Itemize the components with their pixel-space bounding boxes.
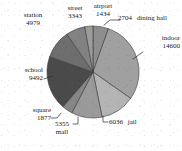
slice-label-jail-name: jail: [128, 118, 137, 126]
slice-label-mall-name: mall: [50, 128, 74, 136]
slice-label-dining-hall: 2704 dining hall: [118, 14, 167, 22]
slice-label-street-value: 3343: [60, 12, 90, 20]
slice-label-dining-hall-name: dining hall: [137, 14, 167, 22]
slice-label-square: square 1877: [6, 106, 51, 122]
slice-label-airport-name: airport: [94, 2, 113, 10]
slice-label-jail: 6036 jail: [109, 118, 137, 126]
slice-label-airport: airport 1434: [88, 2, 118, 18]
slice-label-jail-value: 6036: [109, 118, 123, 126]
slice-label-station-value: 4979: [12, 19, 54, 27]
slice-label-street-name: street: [67, 4, 82, 12]
slice-label-school-value: 9492: [1, 74, 43, 82]
slice-label-indoor-value: 14600: [131, 42, 180, 50]
slice-label-mall-value: 5355: [55, 120, 69, 128]
slice-label-dining-hall-value: 2704: [118, 14, 132, 22]
slice-label-square-name: square: [33, 106, 51, 114]
pie-chart: station 4979 street 3343 airport 1434 27…: [0, 0, 182, 151]
slice-label-airport-value: 1434: [88, 10, 118, 18]
slice-label-street: street 3343: [60, 4, 90, 20]
slice-label-indoor-name: indoor: [162, 34, 180, 42]
slice-label-station: station 4979: [12, 11, 54, 27]
slice-label-square-value: 1877: [6, 114, 51, 122]
slice-label-school-name: school: [25, 66, 43, 74]
pie-slice-group: [47, 26, 139, 118]
slice-label-indoor: indoor 14600: [131, 34, 180, 50]
leader-line-square: [51, 113, 61, 118]
slice-label-station-name: station: [24, 11, 43, 19]
slice-label-mall: 5355 mall: [50, 120, 74, 136]
slice-label-school: school 9492: [1, 66, 43, 82]
